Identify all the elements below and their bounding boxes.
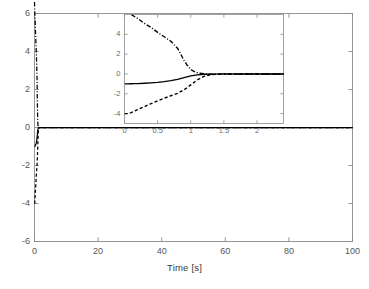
x-tick-label: 0 [15,246,55,256]
inset-x-tick-label: 0 [110,126,140,135]
y-tick-label: 2 [6,84,30,94]
x-tick-label: 40 [142,246,182,256]
main-plot-canvas [0,0,369,289]
y-tick-label: 6 [6,8,30,18]
inset-x-tick-label: 0.5 [143,126,173,135]
inset-y-tick-label: 4 [103,29,121,38]
x-tick-label: 100 [333,246,369,256]
inset-x-tick-label: 1.5 [209,126,239,135]
inset-background [124,14,284,124]
inset-x-tick-label: 1 [176,126,206,135]
y-tick-label: -2 [6,160,30,170]
x-tick-label: 80 [269,246,309,256]
inset-x-tick-label: 2 [242,126,272,135]
inset-y-tick-label: -4 [103,109,121,118]
x-tick-label: 60 [205,246,245,256]
y-tick-label: -6 [6,236,30,246]
y-tick-label: -4 [6,198,30,208]
inset-y-tick-label: -2 [103,89,121,98]
x-axis-label: Time [s] [0,262,369,273]
inset-y-tick-label: 0 [103,69,121,78]
main-series-state-2 [35,128,353,204]
figure-container: Time [s] 020406080100-6-4-2024600.511.52… [0,0,369,289]
y-tick-label: 0 [6,122,30,132]
inset-y-tick-label: 2 [103,49,121,58]
y-tick-label: 4 [6,46,30,56]
x-tick-label: 20 [78,246,118,256]
